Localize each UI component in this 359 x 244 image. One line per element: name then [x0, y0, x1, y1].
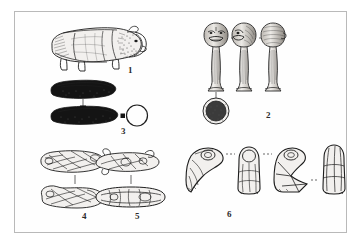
pestle-view-a — [204, 23, 228, 100]
figure-4-number: 4 — [82, 212, 87, 221]
figure-3-number: 3 — [121, 127, 126, 136]
figure-1-svg — [41, 19, 151, 74]
pestle-view-c — [261, 23, 286, 91]
figure-6-svg — [183, 142, 347, 210]
figure-2-number: 2 — [266, 111, 271, 120]
figure-6-number: 6 — [227, 210, 232, 219]
figure-6-drawing — [183, 142, 347, 210]
figure-1-number: 1 — [128, 66, 133, 75]
pestle-view-b — [232, 23, 256, 91]
figure-2-svg — [200, 16, 320, 116]
figure-5-drawing — [93, 146, 169, 212]
figure-1-drawing — [41, 19, 151, 74]
tool-view-c — [274, 148, 307, 192]
figure-5-svg — [93, 146, 169, 212]
figure-5-number: 5 — [135, 212, 140, 221]
figure-3-drawing — [47, 78, 152, 130]
pestle-base-section — [203, 98, 229, 124]
tool-view-b — [238, 147, 260, 194]
tool-view-d — [323, 145, 345, 194]
figure-plate: 1 — [14, 11, 347, 233]
figure-2-drawing — [200, 16, 320, 116]
tool-view-a — [186, 148, 223, 192]
figure-3-svg — [47, 78, 152, 130]
